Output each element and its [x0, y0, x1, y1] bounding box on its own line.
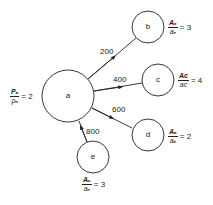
node-c: c: [142, 64, 174, 96]
node-e: e: [77, 141, 109, 173]
annotation-d-numerator: Aₔ: [168, 128, 178, 137]
annotation-b-value: = 3: [180, 24, 191, 32]
annotation-e: Aₑ aₑ = 3: [82, 176, 105, 193]
annotation-e-value: = 3: [94, 181, 105, 189]
node-label-a: a: [66, 91, 71, 100]
edge-e-a: 800: [79, 121, 100, 142]
edge-a-b: 200: [88, 38, 136, 79]
annotation-a-value: = 2: [21, 93, 32, 101]
edge-label-400: 400: [113, 75, 127, 84]
annotation-c: Aᴄ aᴄ = 4: [178, 72, 202, 89]
edge-a-c: 400: [94, 75, 142, 91]
annotation-e-denominator: aₑ: [83, 185, 92, 193]
annotation-c-denominator: aᴄ: [179, 81, 188, 89]
node-d: d: [132, 119, 164, 151]
node-a: a: [42, 70, 94, 122]
node-label-e: e: [91, 152, 96, 161]
annotation-b-numerator: Aₑ: [168, 19, 178, 28]
annotation-e-numerator: Aₑ: [82, 176, 92, 185]
edge-label-800: 800: [86, 127, 100, 136]
annotation-d-denominator: aₔ: [169, 137, 178, 145]
annotation-c-value: = 4: [191, 77, 202, 85]
edge-label-200: 200: [100, 47, 114, 56]
annotation-d: Aₔ aₔ = 2: [168, 128, 191, 145]
node-label-d: d: [146, 130, 150, 139]
annotation-a-denominator: ρₐ: [10, 97, 19, 105]
annotation-c-numerator: Aᴄ: [178, 72, 189, 81]
annotation-b-denominator: aₑ: [169, 28, 178, 36]
annotation-b: Aₑ aₑ = 3: [168, 19, 191, 36]
annotation-a: Pₐ ρₐ = 2: [10, 88, 33, 105]
edge-label-600: 600: [112, 105, 126, 114]
node-label-b: b: [146, 22, 151, 31]
annotation-d-value: = 2: [180, 133, 191, 141]
edge-d-a: 600: [92, 105, 132, 128]
annotation-a-numerator: Pₐ: [10, 88, 19, 97]
node-b: b: [132, 11, 164, 43]
node-label-c: c: [156, 75, 160, 84]
